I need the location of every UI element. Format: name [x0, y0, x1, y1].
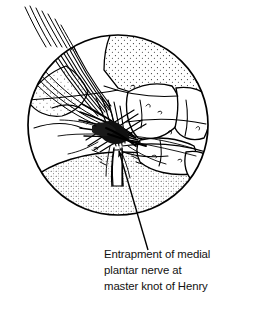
caption-line-2: plantar nerve at: [104, 264, 182, 276]
caption-line-1: Entrapment of medial: [104, 248, 210, 260]
anatomical-illustration: Entrapment of medial plantar nerve at ma…: [0, 0, 254, 312]
figure-root: Entrapment of medial plantar nerve at ma…: [0, 0, 254, 312]
caption-line-3: master knot of Henry: [104, 280, 208, 292]
